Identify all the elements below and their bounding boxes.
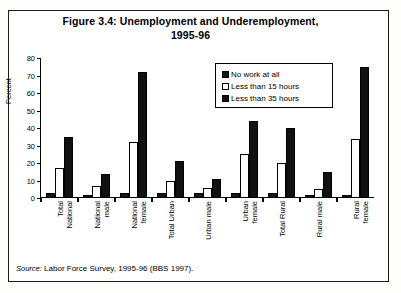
x-axis-label-line: National xyxy=(129,201,138,229)
y-tick-mark xyxy=(37,128,41,129)
x-axis-label: Nationalmale xyxy=(78,199,115,257)
bar xyxy=(120,193,129,198)
bar xyxy=(83,195,92,199)
bar xyxy=(157,193,166,198)
y-tick-label: 10 xyxy=(15,177,35,186)
bar xyxy=(166,181,175,199)
y-tick-label: 30 xyxy=(15,142,35,151)
bar xyxy=(240,154,249,198)
legend-swatch-icon xyxy=(222,71,229,78)
legend-label: No work at all xyxy=(231,70,279,79)
bar xyxy=(212,179,221,198)
bar xyxy=(231,193,240,198)
source-label: Source: xyxy=(16,264,42,273)
legend-item: Less than 35 hours xyxy=(222,94,327,103)
x-axis-label: Urbanfemale xyxy=(227,199,264,257)
y-tick-label: 20 xyxy=(15,159,35,168)
y-axis-label: Percent xyxy=(4,78,13,104)
y-tick-mark xyxy=(37,146,41,147)
bar xyxy=(101,174,110,199)
y-tick-mark xyxy=(37,111,41,112)
bar xyxy=(305,195,314,199)
x-axis-label-line: Urban xyxy=(241,201,250,221)
x-axis-label-line: Total Urban xyxy=(166,201,175,239)
y-tick-mark xyxy=(37,181,41,182)
x-axis-label-line: National xyxy=(92,201,101,229)
y-tick-mark xyxy=(37,93,41,94)
y-tick-mark xyxy=(37,76,41,77)
x-axis-label: TotalNational xyxy=(41,199,78,257)
bar-group xyxy=(337,58,374,198)
source-text: Labor Force Survey, 1995-96 (BBS 1997). xyxy=(44,264,193,273)
legend-label: Less than 35 hours xyxy=(231,94,299,103)
figure-page: Figure 3.4: Unemployment and Underemploy… xyxy=(0,0,401,293)
y-tick-mark xyxy=(37,58,41,59)
x-axis-label: Total Urban xyxy=(152,199,189,257)
bar xyxy=(203,188,212,199)
x-axis-label-line: Rural male xyxy=(315,201,324,237)
x-axis-label-line: male xyxy=(101,201,110,217)
x-axis-label: Nationalfemale xyxy=(115,199,152,257)
bar-group xyxy=(152,58,189,198)
bar xyxy=(351,139,360,199)
bar xyxy=(64,137,73,198)
x-axis-label-line: Total Rural xyxy=(278,201,287,237)
bar xyxy=(342,195,351,199)
y-tick-label: 50 xyxy=(15,107,35,116)
x-axis-label: Ruralfemale xyxy=(338,199,375,257)
bar xyxy=(323,172,332,198)
bar-group xyxy=(78,58,115,198)
x-axis-label-line: Total xyxy=(55,201,64,217)
x-axis-label-line: female xyxy=(361,201,370,224)
legend-item: Less than 15 hours xyxy=(222,82,327,91)
legend-item: No work at all xyxy=(222,70,327,79)
figure-title-line1: Figure 3.4: Unemployment and Underemploy… xyxy=(20,14,361,28)
x-axis-label: Rural male xyxy=(301,199,338,257)
x-axis-label: Urban male xyxy=(189,199,226,257)
bar xyxy=(249,121,258,198)
y-tick-label: 40 xyxy=(15,124,35,133)
legend-label: Less than 15 hours xyxy=(231,82,299,91)
bar xyxy=(46,193,55,198)
x-axis-label-line: female xyxy=(250,201,259,224)
legend-swatch-icon xyxy=(222,95,229,102)
bar xyxy=(277,163,286,198)
bar-group xyxy=(115,58,152,198)
y-tick-label: 0 xyxy=(15,194,35,203)
y-tick-mark xyxy=(37,163,41,164)
bar xyxy=(138,72,147,198)
bar xyxy=(55,168,64,198)
bar xyxy=(286,128,295,198)
bar xyxy=(92,186,101,198)
bar xyxy=(268,193,277,198)
bar xyxy=(129,142,138,198)
bar xyxy=(314,189,323,198)
chart-legend: No work at allLess than 15 hoursLess tha… xyxy=(215,63,333,108)
x-axis-labels: TotalNationalNationalmaleNationalfemaleT… xyxy=(41,199,375,257)
x-axis-label-line: Urban male xyxy=(203,201,212,240)
x-axis-label-line: female xyxy=(138,201,147,224)
bar-group xyxy=(41,58,78,198)
figure-title-line2: 1995-96 xyxy=(20,28,361,42)
bar xyxy=(360,67,369,198)
y-tick-label: 70 xyxy=(15,72,35,81)
x-axis-label: Total Rural xyxy=(264,199,301,257)
source-note: Source: Labor Force Survey, 1995-96 (BBS… xyxy=(16,264,193,273)
bar xyxy=(175,161,184,198)
figure-title: Figure 3.4: Unemployment and Underemploy… xyxy=(20,14,361,42)
y-tick-label: 80 xyxy=(15,54,35,63)
legend-swatch-icon xyxy=(222,83,229,90)
y-tick-label: 60 xyxy=(15,89,35,98)
x-axis-label-line: National xyxy=(64,201,73,229)
bar xyxy=(194,193,203,198)
